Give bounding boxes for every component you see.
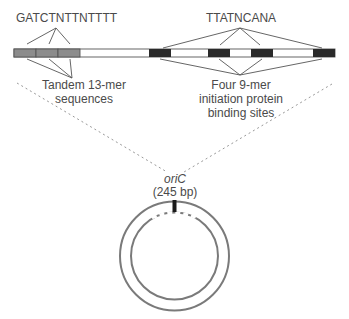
oric-marker xyxy=(173,200,177,212)
binding-9mer-2 xyxy=(208,49,230,57)
oric-name-label: oriC xyxy=(164,172,186,186)
consensus-13mer-label: GATCTNTTNTTTT xyxy=(16,11,118,25)
connectors-9mer-bottom xyxy=(160,59,322,75)
tandem-13mer-caption-line2: sequences xyxy=(55,92,113,106)
binding-9mer-caption-line3: binding sites xyxy=(208,106,275,120)
binding-9mer-caption-line1: Four 9-mer xyxy=(211,78,270,92)
oric-diagram: GATCTNTTNTTTT TTATNCANA Tandem 13-mer xyxy=(0,0,349,319)
tandem-13mer-2 xyxy=(36,49,58,57)
connectors-13mer-top xyxy=(27,28,70,44)
tandem-13mer-1 xyxy=(14,49,36,57)
binding-9mer-3 xyxy=(251,49,273,57)
tandem-13mer-caption-line1: Tandem 13-mer xyxy=(42,78,126,92)
connectors-9mer-top xyxy=(163,28,322,48)
connectors-13mer-bottom xyxy=(27,59,72,78)
outer-strand xyxy=(120,202,229,311)
oric-size-label: (245 bp) xyxy=(153,185,198,199)
binding-9mer-caption-line2: initiation protein xyxy=(199,92,283,106)
circular-chromosome xyxy=(120,200,229,311)
tandem-13mer-3 xyxy=(58,49,80,57)
inner-strand xyxy=(131,213,218,300)
binding-9mer-4 xyxy=(313,49,335,57)
consensus-9mer-label: TTATNCANA xyxy=(206,11,276,25)
binding-9mer-1 xyxy=(149,49,171,57)
origin-bar xyxy=(14,49,335,57)
